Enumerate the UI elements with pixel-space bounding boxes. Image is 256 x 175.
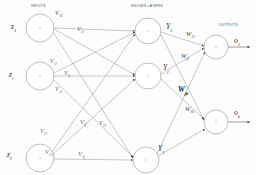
weight-label-v-i1-a: Vi1 xyxy=(77,25,84,34)
weight-label-w-11: W11 xyxy=(186,30,195,39)
node-label-z1-sub: 1 xyxy=(14,28,16,33)
weight-label-w-Jk: WJk xyxy=(185,105,194,114)
edge-zI-yj xyxy=(53,79,135,154)
diagram-canvas xyxy=(0,0,256,175)
dot-z1 xyxy=(39,27,40,28)
weight-label-v-11-sub: 11 xyxy=(59,13,63,18)
weight-label-v-1j-sub: 1j xyxy=(82,154,85,159)
edge-z1-y1 xyxy=(54,28,135,31)
node-label-zI: zI xyxy=(7,150,11,161)
dot-o1 xyxy=(215,46,216,47)
weight-label-v-Ij: VIj xyxy=(80,118,86,127)
section-label-hidden: HIDDEN LAYERS xyxy=(131,4,163,8)
dot-zi xyxy=(39,75,40,76)
weight-label-w-j1-sub: j1 xyxy=(186,56,189,61)
hidden-nodes-circles xyxy=(133,18,161,173)
weight-label-v-1j: V1j xyxy=(78,150,85,159)
node-label-z1: z1 xyxy=(11,22,16,33)
weight-label-v-IJ: VIJ xyxy=(99,119,106,128)
weight-label-v-i1-b: Vi1 xyxy=(50,57,57,66)
node-label-y1-sub: 1 xyxy=(170,28,172,33)
output-nodes-circles xyxy=(204,35,228,134)
node-label-o1: o1 xyxy=(234,36,240,47)
weight-label-w-j1: Wj1 xyxy=(181,52,190,61)
node-label-yj-sub: j xyxy=(167,69,168,74)
weight-label-v-1J: V1J xyxy=(45,148,53,157)
node-label-zI-sub: I xyxy=(10,156,12,161)
weight-label-v-i1-a-sub: i1 xyxy=(81,29,84,34)
edge-y1-ok xyxy=(161,35,204,120)
weight-label-w-jk-base: W xyxy=(178,85,185,94)
weight-label-v-I1-sub: I1 xyxy=(44,131,47,136)
section-label-outputs: OUTPUTS xyxy=(219,23,238,27)
node-label-yJ-sub: J xyxy=(162,150,164,155)
node-label-ok: ok xyxy=(234,108,240,119)
node-label-o1-sub: 1 xyxy=(238,42,240,47)
node-label-zi-sub: i xyxy=(12,76,13,81)
dot-yj xyxy=(147,75,148,76)
edge-zI-yJ xyxy=(54,159,133,160)
weight-label-v-iJ: ViJ xyxy=(55,85,62,94)
node-label-ok-sub: k xyxy=(238,114,240,119)
weight-label-v-11: V11 xyxy=(55,9,63,18)
dot-ok xyxy=(215,121,216,122)
neural-network-diagram: INPUTS HIDDEN LAYERS OUTPUTS z1 zi zI Y1… xyxy=(0,0,256,175)
dot-zI xyxy=(39,157,40,158)
dot-y1 xyxy=(147,30,148,31)
node-label-zi: zi xyxy=(9,70,13,81)
edge-yJ-ok xyxy=(158,129,205,156)
input-to-hidden-edges xyxy=(52,28,135,160)
weight-label-v-ij-sub: ij xyxy=(68,73,70,78)
section-label-inputs: INPUTS xyxy=(31,4,46,8)
weight-label-v-Ij-sub: Ij xyxy=(84,122,87,127)
weight-label-v-iJ-sub: iJ xyxy=(59,89,62,94)
edge-y1-o1 xyxy=(161,32,204,46)
node-label-yj: Yj xyxy=(163,63,168,74)
weight-label-v-i1-b-sub: i1 xyxy=(54,61,57,66)
weight-label-v-1J-sub: 1J xyxy=(49,152,53,157)
weight-label-w-jk: Wjk xyxy=(178,85,189,96)
node-label-yJ: YJ xyxy=(158,144,164,155)
weight-label-v-IJ-sub: IJ xyxy=(103,123,106,128)
dot-yJ xyxy=(145,159,146,160)
node-label-y1: Y1 xyxy=(166,22,172,33)
weight-label-w-jk-sub: jk xyxy=(185,91,189,96)
weight-label-v-ij: Vij xyxy=(64,69,70,78)
weight-label-v-I1: VI1 xyxy=(40,127,47,136)
node-center-dots xyxy=(39,27,216,160)
weight-label-w-Jk-sub: Jk xyxy=(190,109,194,114)
weight-label-w-11-sub: 11 xyxy=(191,34,195,39)
